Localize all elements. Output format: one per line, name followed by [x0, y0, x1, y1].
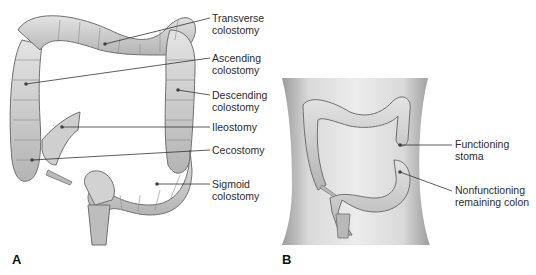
label-functioning-stoma: Functioning stoma [455, 138, 509, 162]
label-ascending-colostomy: Ascending colostomy [212, 52, 261, 76]
panel-a-colon [10, 16, 210, 245]
colostomy-diagram: Transverse colostomy Ascending colostomy… [0, 0, 536, 275]
label-sigmoid-colostomy: Sigmoid colostomy [212, 178, 259, 202]
label-transverse-colostomy: Transverse colostomy [212, 12, 264, 36]
label-nonfunctioning-colon: Nonfunctioning remaining colon [455, 184, 529, 208]
label-descending-colostomy: Descending colostomy [212, 89, 267, 113]
panel-a-letter: A [12, 252, 21, 267]
panel-b-letter: B [282, 252, 291, 267]
label-cecostomy: Cecostomy [212, 144, 265, 156]
panel-b-torso [282, 78, 452, 245]
label-ileostomy: Ileostomy [212, 121, 257, 133]
